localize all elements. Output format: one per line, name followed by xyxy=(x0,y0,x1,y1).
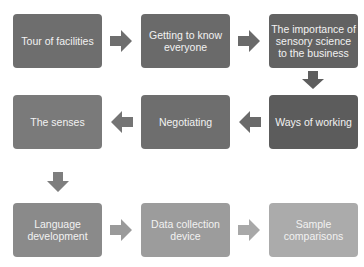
step-language-development: Language development xyxy=(13,203,102,257)
step-label: Language development xyxy=(15,218,100,242)
step-importance-of-sensory-science: The importance of sensory science to the… xyxy=(269,14,358,68)
step-tour-of-facilities: Tour of facilities xyxy=(13,14,102,68)
arrow-right-icon xyxy=(110,30,132,52)
arrow-left-icon xyxy=(111,111,133,133)
arrow-right-icon xyxy=(238,30,260,52)
step-label: Tour of facilities xyxy=(21,35,93,47)
arrow-down-icon xyxy=(302,71,324,89)
step-label: The senses xyxy=(30,116,84,128)
step-negotiating: Negotiating xyxy=(141,95,230,149)
step-label: Ways of working xyxy=(275,116,352,128)
step-label: Data collection device xyxy=(143,218,228,242)
step-label: Getting to know everyone xyxy=(143,29,228,53)
step-label: Sample comparisons xyxy=(271,218,356,242)
step-data-collection-device: Data collection device xyxy=(141,203,230,257)
step-ways-of-working: Ways of working xyxy=(269,95,358,149)
step-label: Negotiating xyxy=(159,116,212,128)
arrow-left-icon xyxy=(239,111,261,133)
step-the-senses: The senses xyxy=(13,95,102,149)
arrow-right-icon xyxy=(110,219,132,241)
step-label: The importance of sensory science to the… xyxy=(271,23,356,59)
arrow-right-icon xyxy=(238,219,260,241)
arrow-down-icon xyxy=(47,172,69,192)
step-sample-comparisons: Sample comparisons xyxy=(269,203,358,257)
step-getting-to-know-everyone: Getting to know everyone xyxy=(141,14,230,68)
